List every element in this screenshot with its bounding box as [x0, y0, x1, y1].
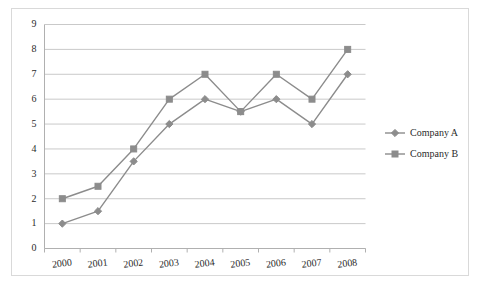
x-axis-tick-label: 2006	[265, 256, 286, 269]
y-axis-tick-label: 3	[32, 168, 37, 179]
legend-item-company-a[interactable]: Company A	[385, 127, 459, 138]
chart-legend: Company ACompany B	[385, 127, 459, 159]
data-point-marker	[59, 196, 65, 202]
gridline-group	[45, 25, 366, 249]
x-axis-tick-label: 2003	[158, 256, 179, 269]
data-point-marker	[309, 96, 315, 102]
legend-label: Company B	[410, 148, 458, 159]
data-series-layer	[59, 46, 352, 227]
y-axis-tick-label: 5	[32, 118, 37, 129]
y-axis-tick-label: 9	[32, 18, 37, 29]
x-axis-tick-label: 2008	[337, 256, 358, 269]
y-axis-tick-label: 2	[32, 193, 37, 204]
y-axis-tick-label: 0	[32, 242, 37, 253]
x-axis-tick-label: 2005	[230, 256, 251, 269]
y-axis-tick-label: 1	[32, 217, 37, 228]
legend-marker-icon	[391, 129, 398, 136]
x-axis-tick-label: 2000	[51, 256, 72, 269]
legend-label: Company A	[410, 127, 459, 138]
data-point-marker	[131, 146, 137, 152]
data-point-marker	[273, 71, 279, 77]
x-axis-tick-labels: 200020012002200320042005200620072008	[51, 256, 358, 269]
x-axis-tick-marks	[45, 249, 366, 253]
x-axis-tick-label: 2001	[87, 256, 108, 269]
y-axis-tick-label: 8	[32, 43, 37, 54]
y-axis-tick-label: 6	[32, 93, 37, 104]
data-point-marker	[166, 96, 172, 102]
data-point-marker	[59, 220, 66, 227]
x-axis-tick-label: 2004	[194, 256, 215, 269]
data-point-marker	[345, 46, 351, 52]
y-axis-tick-labels: 0123456789	[32, 18, 37, 253]
legend-item-company-b[interactable]: Company B	[385, 148, 458, 159]
data-point-marker	[238, 109, 244, 115]
data-point-marker	[95, 183, 101, 189]
data-point-marker	[202, 71, 208, 77]
legend-marker-icon	[392, 151, 398, 157]
y-axis-tick-label: 7	[32, 68, 37, 79]
x-axis-tick-label: 2002	[123, 256, 144, 269]
y-axis-tick-label: 4	[32, 143, 37, 154]
chart-plot-area: 0123456789 20002001200220032004200520062…	[0, 0, 481, 293]
line-chart-figure: 0123456789 20002001200220032004200520062…	[0, 0, 481, 293]
x-axis-tick-label: 2007	[301, 256, 322, 269]
